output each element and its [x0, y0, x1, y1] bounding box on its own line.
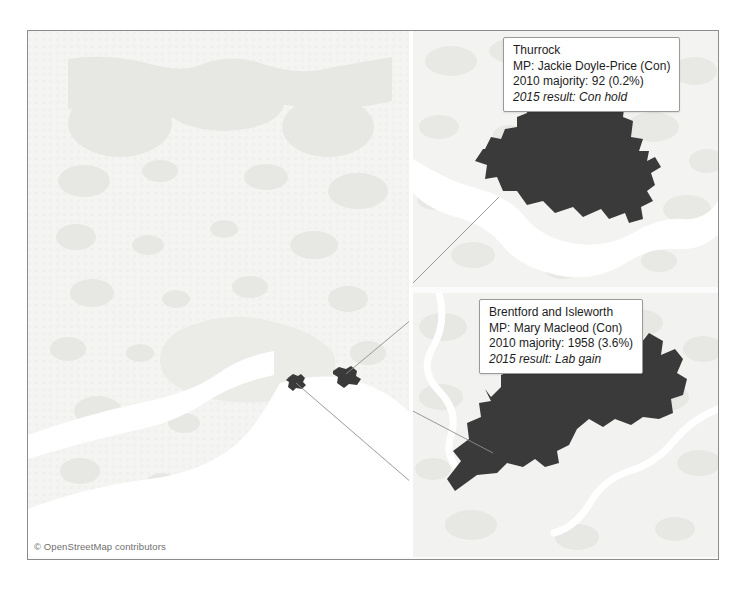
thurrock-mp: MP: Jackie Doyle-Price (Con) [513, 59, 670, 75]
callout-brentford-and-isleworth[interactable]: Brentford and Isleworth MP: Mary Macleod… [479, 299, 643, 374]
callout-thurrock[interactable]: Thurrock MP: Jackie Doyle-Price (Con) 20… [503, 37, 680, 112]
thurrock-title: Thurrock [513, 43, 670, 59]
brentford-result: 2015 result: Lab gain [489, 352, 633, 368]
osm-attribution: © OpenStreetMap contributors [34, 541, 166, 552]
inset-thurrock[interactable]: Thurrock MP: Jackie Doyle-Price (Con) 20… [413, 31, 718, 287]
map-figure: © OpenStreetMap contributors [27, 30, 719, 560]
main-overview-map[interactable]: © OpenStreetMap contributors [28, 31, 412, 557]
brentford-title: Brentford and Isleworth [489, 305, 633, 321]
brentford-majority: 2010 majority: 1958 (3.6%) [489, 336, 633, 352]
inset-column: Thurrock MP: Jackie Doyle-Price (Con) 20… [413, 31, 718, 557]
thurrock-majority: 2010 majority: 92 (0.2%) [513, 74, 670, 90]
main-map-canvas [28, 31, 412, 557]
brentford-mp: MP: Mary Macleod (Con) [489, 321, 633, 337]
thurrock-result: 2015 result: Con hold [513, 90, 670, 106]
inset-brentford-and-isleworth[interactable]: Brentford and Isleworth MP: Mary Macleod… [413, 293, 718, 557]
